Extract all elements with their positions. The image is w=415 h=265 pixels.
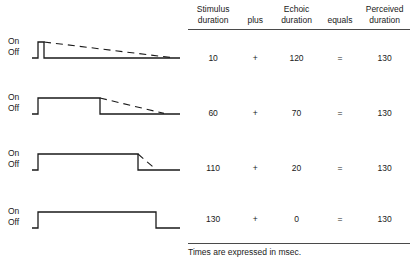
table-footnote: Times are expressed in msec. xyxy=(188,247,301,258)
cell-echoic-duration: 0 xyxy=(272,195,320,244)
waveform-trace-3 xyxy=(30,140,185,186)
column-header-echoic-duration: Echoic duration xyxy=(272,4,320,30)
cell-equals-operator: = xyxy=(321,85,360,140)
table-row: 60 + 70 = 130 xyxy=(188,85,410,140)
column-header-perceived-duration: Perceived duration xyxy=(359,4,410,30)
cell-plus-operator: + xyxy=(238,140,272,195)
waveform-trace-2 xyxy=(30,84,185,130)
table-header: Stimulus duration plus Echoic duration e… xyxy=(188,4,410,30)
waveform-trace-4 xyxy=(30,198,185,244)
cell-stimulus-duration: 130 xyxy=(188,195,238,244)
cell-echoic-duration: 20 xyxy=(272,140,320,195)
table-row: 130 + 0 = 130 xyxy=(188,195,410,244)
column-header-stimulus-duration: Stimulus duration xyxy=(188,4,238,30)
cell-equals-operator: = xyxy=(321,30,360,86)
equation-table-panel: Stimulus duration plus Echoic duration e… xyxy=(185,0,415,265)
waveform-panel: On Off On Off On Off On Of xyxy=(0,0,185,265)
cell-perceived-duration: 130 xyxy=(359,195,410,244)
waveform-row-2: On Off xyxy=(0,84,185,130)
cell-plus-operator: + xyxy=(238,195,272,244)
table-body: 10 + 120 = 130 60 + 70 = 130 110 + 20 = … xyxy=(188,30,410,244)
waveform-row-3: On Off xyxy=(0,140,185,186)
cell-stimulus-duration: 110 xyxy=(188,140,238,195)
column-header-equals: equals xyxy=(321,4,360,30)
cell-echoic-duration: 70 xyxy=(272,85,320,140)
table-row: 110 + 20 = 130 xyxy=(188,140,410,195)
table-header-row: Stimulus duration plus Echoic duration e… xyxy=(188,4,410,30)
cell-plus-operator: + xyxy=(238,30,272,86)
column-header-plus: plus xyxy=(238,4,272,30)
table-row: 10 + 120 = 130 xyxy=(188,30,410,86)
cell-plus-operator: + xyxy=(238,85,272,140)
cell-equals-operator: = xyxy=(321,140,360,195)
waveform-trace-1 xyxy=(30,28,185,74)
equation-table: Stimulus duration plus Echoic duration e… xyxy=(188,4,410,244)
waveform-row-4: On Off xyxy=(0,198,185,244)
cell-echoic-duration: 120 xyxy=(272,30,320,86)
cell-perceived-duration: 130 xyxy=(359,30,410,86)
cell-stimulus-duration: 10 xyxy=(188,30,238,86)
cell-perceived-duration: 130 xyxy=(359,85,410,140)
cell-equals-operator: = xyxy=(321,195,360,244)
cell-perceived-duration: 130 xyxy=(359,140,410,195)
cell-stimulus-duration: 60 xyxy=(188,85,238,140)
waveform-row-1: On Off xyxy=(0,28,185,74)
